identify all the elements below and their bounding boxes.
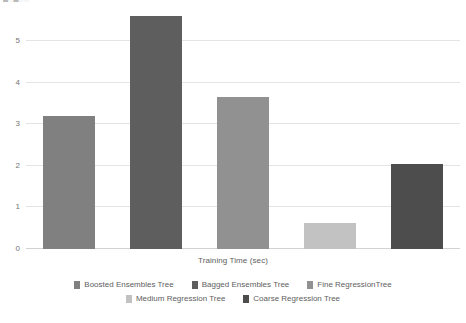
legend-item-label: Coarse Regression Tree	[253, 294, 340, 303]
bar-chart: █░█░░ 012345 Training Time (sec) Boosted…	[0, 0, 466, 323]
legend-item-label: Boosted Ensembles Tree	[84, 280, 173, 289]
bar	[304, 223, 356, 249]
y-axis-tick-label: 5	[16, 36, 20, 45]
legend-item-label: Bagged Ensembles Tree	[202, 280, 290, 289]
legend-item[interactable]: Coarse Regression Tree	[243, 294, 340, 303]
bar	[391, 164, 443, 249]
chart-legend: Boosted Ensembles TreeBagged Ensembles T…	[0, 280, 466, 308]
legend-swatch-icon	[126, 295, 132, 303]
legend-item[interactable]: Fine RegressionTree	[307, 280, 391, 289]
legend-item[interactable]: Bagged Ensembles Tree	[192, 280, 290, 289]
legend-item-label: Medium Regression Tree	[136, 294, 225, 303]
y-axis-tick-label: 2	[16, 160, 20, 169]
legend-item-label: Fine RegressionTree	[317, 280, 391, 289]
legend-row: Boosted Ensembles TreeBagged Ensembles T…	[0, 280, 466, 289]
clipped-chart-title: █░█░░	[3, 0, 29, 2]
x-axis-title: Training Time (sec)	[0, 256, 466, 265]
legend-row: Medium Regression TreeCoarse Regression …	[0, 294, 466, 303]
bar	[130, 16, 182, 249]
legend-swatch-icon	[74, 281, 80, 289]
plot-area: 012345	[26, 6, 460, 249]
legend-swatch-icon	[192, 281, 198, 289]
legend-item[interactable]: Boosted Ensembles Tree	[74, 280, 173, 289]
bar-series	[26, 6, 460, 249]
y-axis-tick-label: 1	[16, 202, 20, 211]
y-axis-tick-label: 0	[16, 244, 20, 253]
legend-item[interactable]: Medium Regression Tree	[126, 294, 225, 303]
y-axis-tick-label: 4	[16, 77, 20, 86]
bar	[217, 97, 269, 249]
legend-swatch-icon	[307, 281, 313, 289]
y-axis-tick-label: 3	[16, 119, 20, 128]
legend-swatch-icon	[243, 295, 249, 303]
bar	[43, 116, 95, 249]
